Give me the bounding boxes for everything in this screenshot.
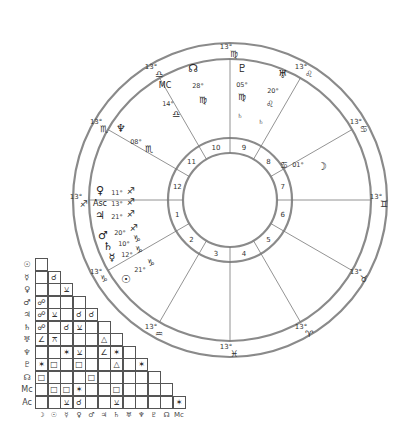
grid-col-label: ♃ bbox=[98, 411, 111, 419]
aspect-cell bbox=[110, 333, 123, 346]
house-number: 1 bbox=[175, 211, 179, 219]
zodiac-sign-icon: ♊ bbox=[380, 199, 388, 209]
aspect-cell: ⚺ bbox=[60, 396, 73, 409]
house-number: 7 bbox=[280, 183, 284, 191]
house-number: 2 bbox=[189, 236, 193, 244]
grid-row-label: ☊ bbox=[21, 371, 33, 384]
grid-col-label: ☽ bbox=[35, 411, 48, 419]
aspect-cell: ∠ bbox=[35, 333, 48, 346]
grid-col-label: Mc bbox=[173, 411, 186, 419]
aspect-cell: ⚺ bbox=[73, 346, 86, 359]
neptune-icon: ♆ bbox=[116, 122, 126, 135]
aspect-cell bbox=[123, 371, 136, 384]
pluto-icon: ♇ bbox=[237, 62, 247, 75]
aspect-cell bbox=[85, 358, 98, 371]
aspect-cell: ⚺ bbox=[60, 283, 73, 296]
midheaven-sign-icon: ♎ bbox=[172, 109, 180, 119]
saturn-sign-icon: ♑ bbox=[133, 234, 141, 244]
pluto-degree: 05° bbox=[236, 81, 248, 89]
aspect-cell bbox=[148, 383, 161, 396]
grid-row-label: ♆ bbox=[21, 346, 33, 359]
mercury-icon: ☿ bbox=[109, 251, 116, 264]
aspect-cell bbox=[135, 371, 148, 384]
aspect-cell bbox=[73, 296, 86, 309]
aspect-cell bbox=[110, 371, 123, 384]
house-number: 6 bbox=[280, 211, 285, 219]
aspect-cell bbox=[48, 371, 61, 384]
jupiter-icon: ♃ bbox=[95, 209, 105, 222]
aspect-cell: ⚺ bbox=[110, 396, 123, 409]
mars-sign-icon: ♐ bbox=[130, 223, 138, 233]
house-number: 10 bbox=[211, 144, 220, 152]
aspect-cell bbox=[60, 333, 73, 346]
grid-col-label: ♄ bbox=[110, 411, 123, 419]
grid-col-label: ♇ bbox=[148, 411, 161, 419]
aspect-cell bbox=[123, 383, 136, 396]
aspect-cell: △ bbox=[110, 358, 123, 371]
aspect-cell: ⚻ bbox=[48, 333, 61, 346]
aspect-cell bbox=[98, 383, 111, 396]
zodiac-sign-icon: ♑ bbox=[100, 274, 108, 284]
zodiac-sign-icon: ♏ bbox=[100, 124, 108, 134]
house-cusp-line bbox=[160, 241, 207, 322]
aspect-cell bbox=[98, 371, 111, 384]
uranus-icon: ♅ bbox=[278, 68, 288, 81]
zodiac-sign-icon: ♎ bbox=[155, 69, 163, 79]
house-number: 12 bbox=[173, 183, 182, 191]
grid-row-label: ♇ bbox=[21, 358, 33, 371]
aspect-cell: □ bbox=[60, 383, 73, 396]
sun-icon: ☉ bbox=[121, 273, 131, 286]
sun-sign-icon: ♑ bbox=[147, 258, 155, 268]
jupiter-degree: 21° bbox=[111, 213, 123, 221]
ascendant-degree: 13° bbox=[111, 200, 123, 208]
moon-sign-icon: ♋ bbox=[280, 160, 288, 170]
house-number: 8 bbox=[266, 158, 270, 166]
venus-degree: 11° bbox=[111, 189, 123, 197]
grid-row-label: Mc bbox=[21, 383, 33, 396]
aspect-cell bbox=[160, 396, 173, 409]
grid-row-label: ♅ bbox=[21, 333, 33, 346]
aspect-cell: ☍ bbox=[35, 296, 48, 309]
ascendant-icon: Asc bbox=[93, 199, 107, 208]
aspect-cell bbox=[35, 283, 48, 296]
aspect-cell bbox=[85, 383, 98, 396]
neptune-sign-icon: ♏ bbox=[145, 144, 153, 154]
aspect-cell: ✶ bbox=[110, 346, 123, 359]
zodiac-sign-icon: ♍ bbox=[230, 49, 238, 59]
neptune-degree: 08° bbox=[130, 138, 142, 146]
house-number: 9 bbox=[242, 144, 246, 152]
grid-col-label: ♆ bbox=[135, 411, 148, 419]
aspect-cell bbox=[135, 396, 148, 409]
aspect-cell bbox=[35, 346, 48, 359]
uranus-degree: 20° bbox=[267, 87, 279, 95]
aspect-cell bbox=[85, 333, 98, 346]
aspect-cell bbox=[85, 346, 98, 359]
north-node-icon: ☊ bbox=[188, 62, 198, 75]
aspect-cell: △ bbox=[98, 333, 111, 346]
jupiter-sign-icon: ♐ bbox=[127, 209, 135, 219]
aspect-cell bbox=[48, 283, 61, 296]
aspect-cell bbox=[60, 296, 73, 309]
retrograde-mark: ♄ bbox=[237, 112, 242, 119]
aspect-cell bbox=[35, 271, 48, 284]
aspect-cell bbox=[60, 358, 73, 371]
moon-degree: 01° bbox=[292, 161, 304, 169]
zodiac-sign-icon: ♐ bbox=[80, 199, 88, 209]
aspect-cell bbox=[60, 371, 73, 384]
aspect-cell bbox=[73, 333, 86, 346]
aspect-cell: □ bbox=[48, 383, 61, 396]
zodiac-sign-icon: ♌ bbox=[305, 69, 313, 79]
house-number: 3 bbox=[214, 250, 218, 258]
aspect-cell: ⚺ bbox=[73, 321, 86, 334]
aspect-cell: □ bbox=[48, 358, 61, 371]
aspect-cell: ✶ bbox=[73, 383, 86, 396]
aspect-cell: ☌ bbox=[60, 321, 73, 334]
aspect-cell bbox=[135, 383, 148, 396]
aspect-cell bbox=[123, 396, 136, 409]
aspect-cell bbox=[123, 358, 136, 371]
grid-row-label: ☿ bbox=[21, 271, 33, 284]
aspect-cell bbox=[85, 396, 98, 409]
midheaven-icon: MC bbox=[159, 81, 172, 90]
aspect-cell: ☍ bbox=[35, 308, 48, 321]
aspect-cell bbox=[48, 321, 61, 334]
